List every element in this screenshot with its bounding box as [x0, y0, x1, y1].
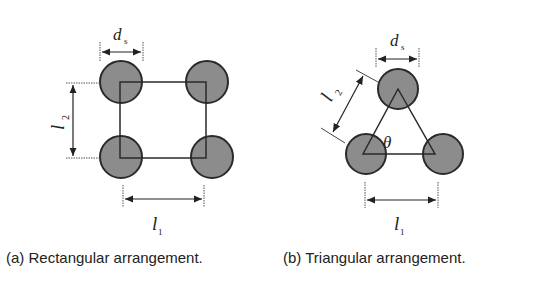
theta-label: θ — [383, 133, 391, 152]
circle-bottom-left — [100, 136, 142, 178]
svg-text:1: 1 — [158, 227, 163, 237]
caption-a: (a) Rectangular arrangement. — [6, 249, 203, 266]
ds-label: d — [390, 31, 399, 50]
svg-text:1: 1 — [400, 227, 405, 237]
l2-label: l — [47, 125, 68, 130]
svg-text:2: 2 — [60, 115, 71, 120]
figure-canvas: d s l 2 l 1 θ d s l 2 l — [0, 0, 552, 283]
l2-dimension-arrow — [333, 76, 363, 132]
panel-a-rectangular: d s l 2 l 1 — [47, 25, 233, 237]
l1-label: l — [394, 213, 399, 234]
caption-b: (b) Triangular arrangement. — [283, 249, 466, 266]
l1-label: l — [152, 213, 157, 234]
svg-text:2: 2 — [332, 88, 344, 98]
circle-bottom-right — [191, 136, 233, 178]
svg-text:s: s — [124, 36, 128, 46]
panel-b-triangular: θ d s l 2 l 1 — [316, 31, 463, 237]
svg-text:s: s — [401, 42, 405, 52]
ds-label: d — [113, 25, 122, 44]
